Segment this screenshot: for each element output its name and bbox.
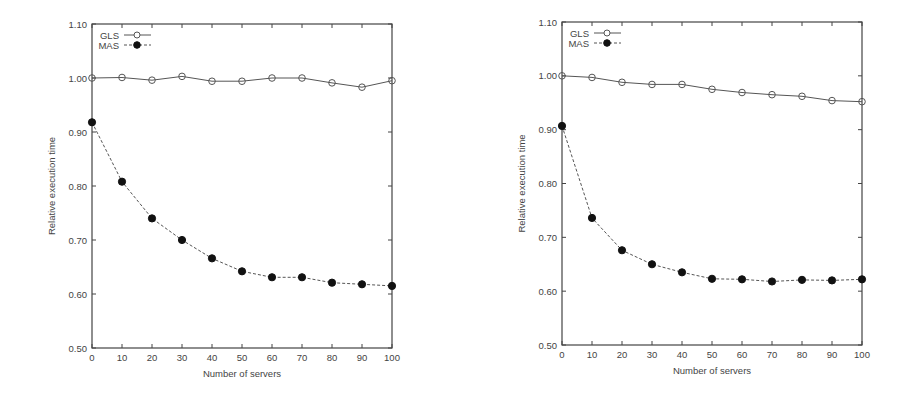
y-tick-label: 0.80 xyxy=(69,181,88,192)
y-tick-label: 0.70 xyxy=(539,232,558,243)
x-tick-label: 0 xyxy=(89,352,94,363)
y-tick-label: 0.60 xyxy=(69,289,88,300)
filled-circle-marker xyxy=(618,247,625,254)
filled-circle-marker xyxy=(558,122,565,129)
y-tick-label: 0.50 xyxy=(69,343,88,354)
filled-circle-marker xyxy=(678,269,685,276)
filled-circle-marker xyxy=(738,276,745,283)
x-tick-label: 40 xyxy=(677,349,688,360)
filled-circle-marker xyxy=(768,278,775,285)
x-axis-title: Number of servers xyxy=(203,368,281,379)
legend-label-mas: MAS xyxy=(98,40,119,51)
y-tick-label: 0.80 xyxy=(539,178,558,189)
x-tick-label: 20 xyxy=(147,352,158,363)
plot-frame xyxy=(562,22,862,345)
filled-circle-marker xyxy=(358,281,365,288)
x-tick-label: 50 xyxy=(707,349,718,360)
filled-circle-marker xyxy=(178,236,185,243)
chart-left: 0.500.600.700.800.901.001.10010203040506… xyxy=(0,0,450,409)
filled-circle-marker xyxy=(798,276,805,283)
x-tick-label: 80 xyxy=(327,352,338,363)
x-tick-label: 10 xyxy=(117,352,128,363)
filled-circle-marker xyxy=(708,275,715,282)
filled-circle-marker xyxy=(298,274,305,281)
y-axis-title: Relative execution time xyxy=(46,137,57,235)
x-tick-label: 90 xyxy=(357,352,368,363)
chart-right-canvas: 0.500.600.700.800.901.001.10010203040506… xyxy=(450,0,899,409)
chart-left-canvas: 0.500.600.700.800.901.001.10010203040506… xyxy=(0,0,450,409)
filled-circle-marker xyxy=(268,274,275,281)
series-line-gls xyxy=(562,76,862,102)
legend-open-circle-icon xyxy=(604,30,610,36)
x-tick-label: 10 xyxy=(587,349,598,360)
x-tick-label: 60 xyxy=(267,352,278,363)
legend-open-circle-icon xyxy=(134,32,140,38)
x-tick-label: 70 xyxy=(767,349,778,360)
filled-circle-marker xyxy=(148,215,155,222)
filled-circle-marker xyxy=(88,119,95,126)
x-tick-label: 0 xyxy=(559,349,564,360)
x-tick-label: 70 xyxy=(297,352,308,363)
filled-circle-marker xyxy=(648,261,655,268)
y-tick-label: 0.90 xyxy=(69,127,88,138)
x-tick-label: 50 xyxy=(237,352,248,363)
x-tick-label: 30 xyxy=(177,352,188,363)
x-tick-label: 80 xyxy=(797,349,808,360)
x-tick-label: 60 xyxy=(737,349,748,360)
y-tick-label: 1.00 xyxy=(539,70,558,81)
plot-frame xyxy=(92,24,392,348)
y-tick-label: 0.90 xyxy=(539,124,558,135)
filled-circle-marker xyxy=(828,277,835,284)
x-tick-label: 100 xyxy=(384,352,400,363)
y-tick-label: 1.10 xyxy=(539,17,558,28)
filled-circle-marker xyxy=(588,214,595,221)
x-tick-label: 100 xyxy=(854,349,870,360)
y-tick-label: 1.10 xyxy=(69,19,88,30)
x-tick-label: 40 xyxy=(207,352,218,363)
x-tick-label: 90 xyxy=(827,349,838,360)
filled-circle-marker xyxy=(388,282,395,289)
y-tick-label: 0.50 xyxy=(539,340,558,351)
x-axis-title: Number of servers xyxy=(673,365,751,376)
filled-circle-marker xyxy=(858,276,865,283)
filled-circle-marker xyxy=(328,279,335,286)
filled-circle-marker xyxy=(208,255,215,262)
legend-filled-circle-icon xyxy=(604,40,611,47)
series-line-mas xyxy=(92,122,392,286)
filled-circle-marker xyxy=(238,268,245,275)
legend-filled-circle-icon xyxy=(134,42,141,49)
legend-label-mas: MAS xyxy=(568,38,589,49)
filled-circle-marker xyxy=(118,178,125,185)
x-tick-label: 30 xyxy=(647,349,658,360)
x-tick-label: 20 xyxy=(617,349,628,360)
y-tick-label: 1.00 xyxy=(69,73,88,84)
y-tick-label: 0.70 xyxy=(69,235,88,246)
series-line-mas xyxy=(562,126,862,282)
y-tick-label: 0.60 xyxy=(539,286,558,297)
y-axis-title: Relative execution time xyxy=(516,134,527,232)
chart-right: 0.500.600.700.800.901.001.10010203040506… xyxy=(450,0,899,409)
